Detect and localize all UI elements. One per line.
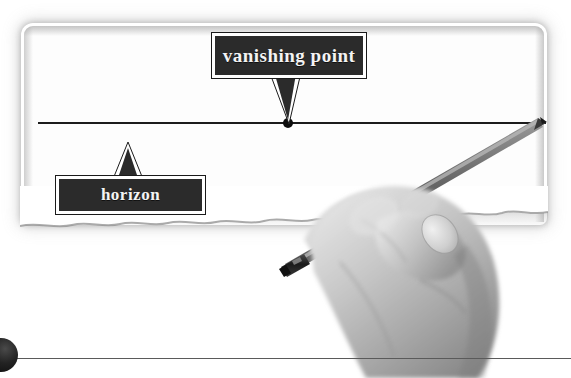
callout-horizon-label: horizon (101, 185, 160, 205)
scene-root: vanishing point horizon (0, 0, 571, 378)
paper-left-shade (24, 26, 33, 222)
corner-sphere (0, 338, 18, 372)
callout-vanishing-point-label: vanishing point (223, 45, 356, 67)
vanishing-point-dot (283, 118, 293, 128)
paper-right-shade (535, 26, 544, 222)
bottom-rule (0, 358, 571, 359)
callout-vanishing-point[interactable]: vanishing point (212, 33, 366, 78)
callout-horizon[interactable]: horizon (56, 176, 205, 214)
